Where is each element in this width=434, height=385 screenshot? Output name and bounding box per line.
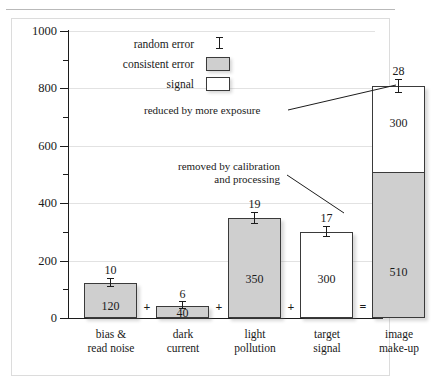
error-value-dark-current: 6 bbox=[164, 287, 201, 302]
y-tick-800 bbox=[60, 88, 69, 89]
annotation-removed-by-calibration: removed by calibration and processing bbox=[150, 160, 280, 186]
operator-plus-1: + bbox=[141, 300, 153, 315]
y-tick-label-200: 200 bbox=[17, 254, 57, 269]
y-tick-200 bbox=[60, 261, 69, 262]
gridline-400 bbox=[69, 203, 375, 204]
x-label-line-1: light bbox=[220, 328, 290, 342]
operator-plus-2: + bbox=[213, 300, 225, 315]
y-tick-500 bbox=[63, 174, 69, 175]
y-tick-label-0: 0 bbox=[17, 311, 57, 326]
x-label-bias-read-noise: bias & read noise bbox=[76, 328, 146, 355]
operator-plus-3: + bbox=[285, 300, 297, 315]
x-axis-line bbox=[60, 318, 383, 319]
y-tick-700 bbox=[63, 117, 69, 118]
legend-marker-white-swatch-icon bbox=[206, 77, 230, 91]
bar-light-pollution[interactable] bbox=[228, 218, 281, 318]
legend-item-consistent-error[interactable]: consistent error bbox=[96, 56, 230, 72]
y-tick-label-group: 1000 800 600 400 200 0 bbox=[13, 0, 57, 385]
y-tick-0 bbox=[60, 318, 69, 319]
bar-value-light-pollution: 350 bbox=[228, 272, 281, 287]
gridline-600 bbox=[69, 146, 375, 147]
legend-item-random-error[interactable]: random error bbox=[96, 36, 230, 52]
header-divider bbox=[6, 9, 395, 10]
legend-marker-grey-swatch-icon bbox=[206, 57, 230, 71]
y-tick-label-1000: 1000 bbox=[17, 24, 57, 39]
x-label-target-signal: target signal bbox=[292, 328, 362, 355]
bar-value-target-signal: 300 bbox=[300, 272, 353, 287]
y-tick-label-400: 400 bbox=[17, 196, 57, 211]
bar-value-image-make-up-consistent: 510 bbox=[372, 265, 425, 280]
x-label-line-2: pollution bbox=[220, 342, 290, 356]
x-label-line-2: make-up bbox=[364, 342, 434, 356]
legend-item-signal[interactable]: signal bbox=[96, 76, 230, 92]
legend-marker-error-bar-icon bbox=[216, 37, 223, 49]
y-tick-600 bbox=[60, 146, 69, 147]
x-label-line-2: current bbox=[148, 342, 218, 356]
annotation-line-1: reduced by more exposure bbox=[144, 104, 260, 117]
bar-value-bias-read-noise: 120 bbox=[84, 299, 137, 314]
error-value-bias-read-noise: 10 bbox=[92, 263, 129, 278]
annotation-reduced-by-more-exposure: reduced by more exposure bbox=[144, 104, 260, 117]
gridline-1000 bbox=[69, 31, 375, 32]
annotation-line-2: and processing bbox=[150, 173, 280, 186]
legend-label-consistent-error: consistent error bbox=[123, 56, 194, 72]
x-label-line-1: target bbox=[292, 328, 362, 342]
y-tick-100 bbox=[63, 289, 69, 290]
legend: random error consistent error signal bbox=[96, 36, 230, 92]
x-label-image-make-up: image make-up bbox=[364, 328, 434, 355]
y-tick-900 bbox=[63, 60, 69, 61]
y-tick-1000 bbox=[60, 31, 69, 32]
annotation-line-1: removed by calibration bbox=[150, 160, 280, 173]
operator-equals: = bbox=[357, 300, 369, 315]
legend-label-signal: signal bbox=[167, 76, 194, 92]
legend-label-random-error: random error bbox=[134, 36, 194, 52]
x-label-dark-current: dark current bbox=[148, 328, 218, 355]
y-tick-300 bbox=[63, 232, 69, 233]
x-label-light-pollution: light pollution bbox=[220, 328, 290, 355]
y-tick-label-600: 600 bbox=[17, 139, 57, 154]
x-label-line-1: image bbox=[364, 328, 434, 342]
x-label-line-2: signal bbox=[292, 342, 362, 356]
error-value-image-make-up: 28 bbox=[380, 64, 417, 79]
bar-segment-image-make-up-consistent-error[interactable] bbox=[372, 172, 425, 318]
x-label-line-1: dark bbox=[148, 328, 218, 342]
y-tick-label-800: 800 bbox=[17, 81, 57, 96]
error-value-target-signal: 17 bbox=[308, 211, 345, 226]
bar-value-image-make-up-signal: 300 bbox=[372, 116, 425, 131]
x-label-line-1: bias & bbox=[76, 328, 146, 342]
x-label-line-2: read noise bbox=[76, 342, 146, 356]
error-value-light-pollution: 19 bbox=[236, 197, 273, 212]
y-tick-400 bbox=[60, 203, 69, 204]
